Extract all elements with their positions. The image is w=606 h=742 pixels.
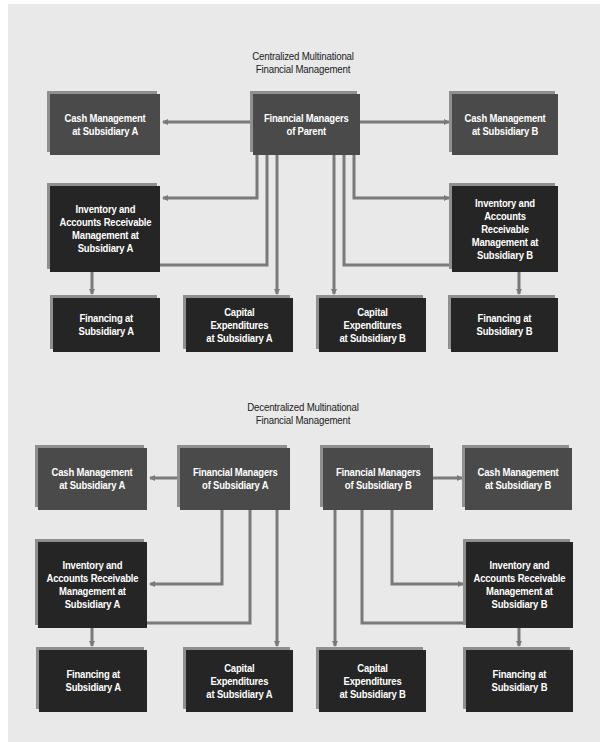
node-label: Financial Managers of Parent xyxy=(264,112,349,138)
node-label: Financing at Subsidiary A xyxy=(65,668,120,694)
node-label: Cash Management at Subsidiary B xyxy=(478,466,559,492)
node-financing-sub-b: Financing at Subsidiary B xyxy=(451,298,558,352)
node-capex-sub-b-decentral: Capital Expenditures at Subsidiary B xyxy=(319,650,426,712)
node-label: Financial Managers of Subsidiary B xyxy=(336,466,421,492)
node-label: Financing at Subsidiary A xyxy=(79,312,134,338)
node-label: Capital Expenditures at Subsidiary A xyxy=(207,662,273,701)
node-cash-management-sub-b: Cash Management at Subsidiary B xyxy=(452,94,558,155)
node-label: Capital Expenditures at Subsidiary B xyxy=(339,306,405,345)
node-label: Financial Managers of Subsidiary A xyxy=(193,466,278,492)
edge-managers-b-inventory-b xyxy=(392,510,463,584)
node-financial-managers-sub-b: Financial Managers of Subsidiary B xyxy=(323,448,433,510)
node-cash-management-sub-a-decentral: Cash Management at Subsidiary A xyxy=(38,448,147,510)
node-label: Inventory and Accounts Receivable Manage… xyxy=(59,203,151,255)
node-label: Inventory and Accounts Receivable Manage… xyxy=(459,197,550,262)
node-label: Cash Management at Subsidiary B xyxy=(464,112,545,138)
node-financing-sub-b-decentral: Financing at Subsidiary B xyxy=(466,650,573,712)
node-financial-managers-sub-a: Financial Managers of Subsidiary A xyxy=(180,448,290,510)
node-inventory-ar-sub-b: Inventory and Accounts Receivable Manage… xyxy=(452,186,558,272)
edge-managers-a-inventory-a xyxy=(150,510,222,584)
node-label: Inventory and Accounts Receivable Manage… xyxy=(474,559,566,611)
node-capex-sub-a-decentral: Capital Expenditures at Subsidiary A xyxy=(186,650,293,712)
node-label: Financing at Subsidiary B xyxy=(477,312,533,338)
node-inventory-ar-sub-b-decentral: Inventory and Accounts Receivable Manage… xyxy=(466,542,573,628)
node-label: Cash Management at Subsidiary A xyxy=(52,466,133,492)
node-label: Inventory and Accounts Receivable Manage… xyxy=(47,559,139,611)
node-cash-management-sub-b-decentral: Cash Management at Subsidiary B xyxy=(465,448,572,510)
node-inventory-ar-sub-a-decentral: Inventory and Accounts Receivable Manage… xyxy=(38,542,147,628)
node-financial-managers-parent: Financial Managers of Parent xyxy=(253,94,360,155)
decentralized-title: Decentralized Multinational Financial Ma… xyxy=(215,401,391,427)
node-capex-sub-a: Capital Expenditures at Subsidiary A xyxy=(186,298,293,352)
node-financing-sub-a-decentral: Financing at Subsidiary A xyxy=(39,650,147,712)
node-label: Cash Management at Subsidiary A xyxy=(64,112,145,138)
node-financing-sub-a: Financing at Subsidiary A xyxy=(53,298,160,352)
node-capex-sub-b: Capital Expenditures at Subsidiary B xyxy=(319,298,426,352)
node-inventory-ar-sub-a: Inventory and Accounts Receivable Manage… xyxy=(50,186,160,272)
centralized-title: Centralized Multinational Financial Mana… xyxy=(215,50,391,76)
edge-parent-inventory-a xyxy=(163,155,257,198)
node-label: Capital Expenditures at Subsidiary A xyxy=(207,306,273,345)
node-label: Financing at Subsidiary B xyxy=(492,668,548,694)
edge-parent-inventory-b xyxy=(354,155,449,198)
node-cash-management-sub-a: Cash Management at Subsidiary A xyxy=(50,94,160,155)
node-label: Capital Expenditures at Subsidiary B xyxy=(339,662,405,701)
